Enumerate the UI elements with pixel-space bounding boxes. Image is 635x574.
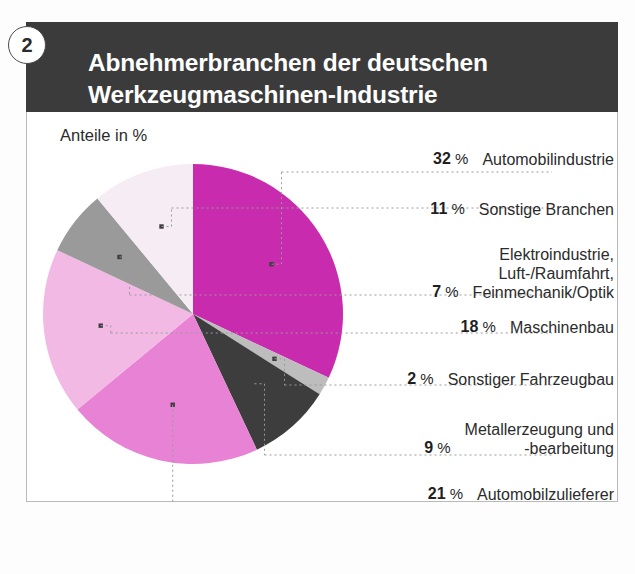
legend-percent: 32 % (433, 150, 468, 169)
legend-percent-value: 32 (433, 150, 451, 167)
legend-label: Elektroindustrie, Luft-/Raumfahrt, Feinm… (473, 245, 614, 302)
legend-label: Automobilzulieferer (477, 485, 614, 504)
legend-percent: 7 % (432, 283, 458, 302)
legend-percent-value: 9 (424, 439, 433, 456)
legend-row: 2 %Sonstiger Fahrzeugbau (352, 370, 614, 389)
percent-symbol: % (433, 439, 451, 456)
percent-symbol: % (416, 370, 434, 387)
percent-symbol: % (447, 200, 465, 217)
legend-row: 9 %Metallerzeugung und -bearbeitung (352, 420, 614, 458)
legend-row: 32 %Automobilindustrie (352, 150, 614, 169)
legend-percent-value: 2 (407, 370, 416, 387)
legend-percent: 2 % (407, 370, 433, 389)
legend-label: Sonstige Branchen (479, 200, 614, 219)
legend-percent: 11 % (430, 200, 464, 219)
legend-row: 11 %Sonstige Branchen (352, 200, 614, 219)
legend-row: 7 %Elektroindustrie, Luft-/Raumfahrt, Fe… (352, 245, 614, 302)
pie-slice-group (43, 164, 343, 464)
legend-percent-value: 7 (432, 283, 441, 300)
percent-symbol: % (441, 283, 459, 300)
percent-symbol: % (478, 318, 496, 335)
legend-label: Metallerzeugung und -bearbeitung (465, 420, 614, 458)
legend-percent-value: 11 (430, 200, 447, 217)
legend-label: Automobilindustrie (482, 150, 614, 169)
legend-label: Sonstiger Fahrzeugbau (448, 370, 614, 389)
figure-number-badge: 2 (8, 26, 46, 64)
percent-symbol: % (451, 150, 469, 167)
percent-symbol: % (446, 485, 464, 502)
legend-row: 21 %Automobilzulieferer (352, 485, 614, 504)
legend-percent: 18 % (461, 318, 496, 337)
legend-percent: 9 % (424, 439, 450, 458)
legend-percent: 21 % (428, 485, 463, 504)
legend-label: Maschinenbau (510, 318, 614, 337)
legend-percent-value: 21 (428, 485, 446, 502)
legend-row: 18 %Maschinenbau (352, 318, 614, 337)
chart-page: Abnehmerbranchen der deutschen Werkzeugm… (0, 0, 635, 574)
legend-percent-value: 18 (461, 318, 479, 335)
